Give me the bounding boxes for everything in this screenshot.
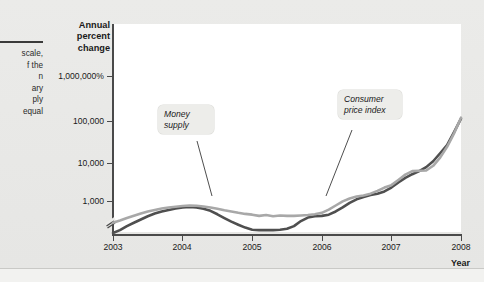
callout-leader-lines	[0, 0, 484, 282]
callout-consumer-price-index: Consumer price index	[338, 90, 402, 119]
leader-line-money	[197, 141, 212, 196]
leader-line-cpi	[326, 130, 352, 196]
callout-money-supply: Money supply	[158, 105, 214, 134]
figure-hyperinflation-chart: scale, f the n ary ply equal Annual perc…	[0, 0, 484, 282]
